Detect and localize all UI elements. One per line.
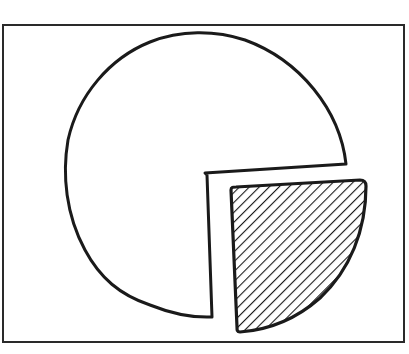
pie-chart	[0, 0, 409, 354]
hatched-pie-slice	[231, 180, 366, 332]
